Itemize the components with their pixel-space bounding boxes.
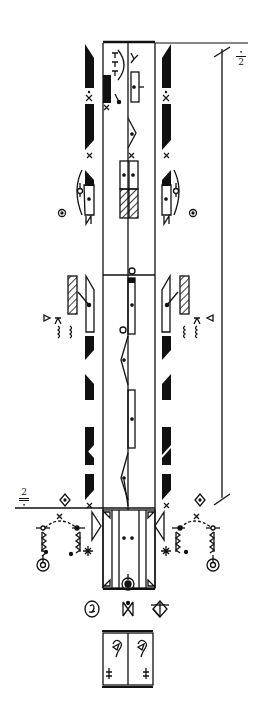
right-leg-gesture: [155, 512, 220, 571]
key-glyph-diamond: [151, 601, 169, 617]
left-gesture-symbols: [103, 50, 124, 104]
key-glyph-bowtie: [123, 602, 133, 617]
key-glyph-spiral: [85, 601, 99, 617]
pre-sign-box: [102, 631, 153, 687]
left-leg-gesture: [36, 512, 101, 571]
right-column-symbols: [162, 44, 171, 500]
starting-position-block: [103, 510, 155, 588]
left-column-symbols: [85, 44, 94, 500]
right-arm-symbol-2: [162, 276, 213, 338]
left-arm-symbol-2: [44, 276, 94, 338]
center-circle-dot: [122, 574, 134, 590]
right-duration-brace: [214, 47, 230, 505]
diamond-prefixes: [60, 494, 205, 506]
bottom-left-time-marker: 2 •: [19, 488, 29, 508]
labanotation-score: [0, 0, 260, 717]
top-right-time-marker: • 2: [236, 49, 246, 67]
center-column-symbols: [120, 53, 144, 506]
